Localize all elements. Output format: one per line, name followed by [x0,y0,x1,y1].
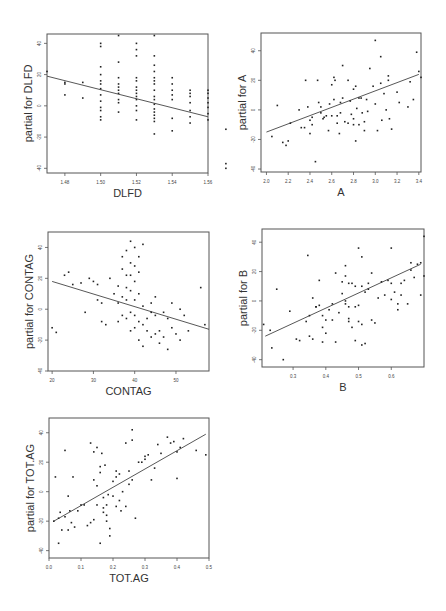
data-point [311,116,313,118]
data-point [307,106,309,108]
data-point [74,526,76,528]
data-point [151,479,153,481]
data-point [325,319,327,321]
plot-tot-ag: 0.00.10.20.30.40.540200-20-40TOT.AGparti… [24,418,213,584]
data-point [374,40,376,42]
regression-line [266,74,418,132]
data-point [150,312,152,314]
data-point [100,80,102,82]
data-point [100,88,102,90]
data-point [176,478,178,480]
data-point [390,299,392,301]
data-point [282,359,284,361]
data-point [167,436,169,438]
data-point [157,444,159,446]
data-point [154,71,156,73]
data-point [84,312,86,314]
plot-a: 2.02.22.42.62.83.03.23.440200-20-40Apart… [236,33,422,198]
data-point [96,504,98,506]
data-point [368,288,370,290]
data-point [307,255,309,257]
data-point [355,85,357,87]
data-point [171,77,173,79]
data-point [309,335,311,337]
data-point [333,99,335,101]
data-point [80,504,82,506]
data-point [142,305,144,307]
data-point [397,303,399,305]
data-point [146,330,148,332]
data-point [64,83,66,85]
y-tick-label: -20 [38,336,43,343]
x-tick-label: 1.50 [96,180,105,185]
data-point [322,327,324,329]
data-point [159,342,161,344]
data-point [154,35,156,37]
data-point [67,495,69,497]
data-point [126,299,128,301]
data-point [176,451,178,453]
data-point [142,244,144,246]
data-point [142,345,144,347]
data-point [188,330,190,332]
data-point [138,293,140,295]
data-point [115,476,117,478]
data-point [163,312,165,314]
data-point [83,504,85,506]
data-point [225,168,227,170]
data-point [207,107,209,109]
data-point [97,284,99,286]
data-point [344,121,346,123]
data-point [100,94,102,96]
data-point [130,290,132,292]
data-point [170,442,172,444]
y-tick-label: -20 [37,133,42,140]
data-point [271,347,273,349]
x-tick-label: 2.0 [263,179,270,184]
data-point [315,161,317,163]
data-point [171,302,173,304]
data-point [147,454,149,456]
y-axis-label: partial for CONTAG [23,254,35,349]
data-point [351,327,353,329]
data-point [320,112,322,114]
data-point [117,321,119,323]
data-point [354,340,356,342]
data-point [282,142,284,144]
x-tick-label: 0.5 [206,565,213,570]
data-point [335,341,337,343]
y-tick-label: 40 [38,244,43,250]
data-point [72,476,74,478]
data-point [154,111,156,113]
x-tick-label: 1.52 [132,180,141,185]
data-point [225,163,227,165]
data-point [387,280,389,282]
data-point [340,112,342,114]
data-point [118,86,120,88]
x-tick-label: 2.6 [329,179,336,184]
data-point [334,80,336,82]
data-point [101,302,103,304]
data-point [93,451,95,453]
data-point [377,297,379,299]
data-point [58,517,60,519]
data-point [348,283,350,285]
data-point [154,133,156,135]
data-point [103,512,105,514]
data-point [207,97,209,99]
data-point [134,247,136,249]
data-point [64,450,66,452]
data-point [364,130,366,132]
data-point [122,256,124,258]
y-tick-label: 40 [39,430,44,436]
data-point [142,324,144,326]
data-point [366,99,368,101]
data-point [285,145,287,147]
data-point [146,318,148,320]
data-point [342,65,344,67]
data-point [396,91,398,93]
data-point [55,476,57,478]
regression-line [265,264,420,336]
data-point [136,86,138,88]
data-point [358,124,360,126]
